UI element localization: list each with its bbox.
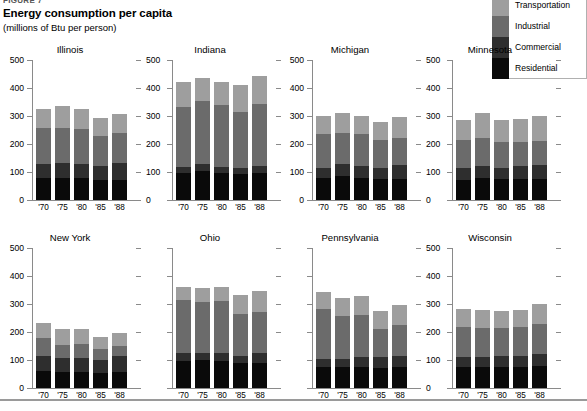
bar-segment-commercial xyxy=(93,166,108,180)
bar-indiana-85[interactable] xyxy=(233,85,248,200)
bar-new-york-80[interactable] xyxy=(74,329,89,388)
plot-area-indiana: '70'75'80'85'88 xyxy=(172,60,260,200)
bar-ohio-88[interactable] xyxy=(252,291,267,388)
x-axis-label: '75 xyxy=(55,203,70,212)
bar-ohio-85[interactable] xyxy=(233,295,248,388)
bar-segment-transportation xyxy=(195,78,210,102)
bar-illinois-88[interactable] xyxy=(112,114,127,200)
bar-segment-residential xyxy=(74,372,89,388)
bar-indiana-80[interactable] xyxy=(214,82,229,200)
bar-minnesota-70[interactable] xyxy=(456,120,471,200)
bar-segment-commercial xyxy=(176,353,191,360)
bar-michigan-85[interactable] xyxy=(373,122,388,200)
bar-segment-residential xyxy=(214,173,229,200)
bar-segment-industrial xyxy=(316,309,331,359)
y-axis-line xyxy=(312,248,313,388)
bar-segment-industrial xyxy=(513,142,528,167)
panel-ohio: Ohio'70'75'80'85'88 xyxy=(140,232,280,402)
bar-new-york-85[interactable] xyxy=(93,337,108,388)
bar-wisconsin-70[interactable] xyxy=(456,309,471,388)
bar-pennsylvania-75[interactable] xyxy=(335,298,350,388)
panel-pennsylvania: Pennsylvania0100200300400500'70'75'80'85… xyxy=(280,232,420,402)
bar-segment-transportation xyxy=(335,113,350,133)
x-axis-line xyxy=(452,388,557,389)
bar-segment-residential xyxy=(373,179,388,200)
bar-segment-industrial xyxy=(233,112,248,168)
bar-ohio-70[interactable] xyxy=(176,287,191,388)
bar-ohio-80[interactable] xyxy=(214,287,229,388)
bar-new-york-70[interactable] xyxy=(36,323,51,388)
x-axis-labels: '70'75'80'85'88 xyxy=(36,203,127,212)
bar-segment-transportation xyxy=(176,82,191,107)
bar-illinois-75[interactable] xyxy=(55,106,70,200)
bar-pennsylvania-85[interactable] xyxy=(373,311,388,388)
bar-illinois-70[interactable] xyxy=(36,109,51,200)
y-axis-label: 100 xyxy=(290,167,304,177)
bar-segment-industrial xyxy=(494,142,509,168)
bar-minnesota-88[interactable] xyxy=(532,116,547,200)
bar-segment-residential xyxy=(233,363,248,388)
y-tick xyxy=(307,172,312,173)
bar-segment-transportation xyxy=(93,337,108,349)
bar-pennsylvania-80[interactable] xyxy=(354,296,369,388)
plot-area-illinois: 00100100200200300300400400500500'70'75'8… xyxy=(32,60,120,200)
bar-segment-transportation xyxy=(55,329,70,345)
bar-wisconsin-88[interactable] xyxy=(532,304,547,388)
bar-pennsylvania-70[interactable] xyxy=(316,292,331,388)
bar-michigan-80[interactable] xyxy=(354,116,369,200)
bar-minnesota-75[interactable] xyxy=(475,113,490,200)
y-tick-right xyxy=(556,144,561,145)
bar-group xyxy=(36,248,127,388)
x-axis-labels: '70'75'80'85'88 xyxy=(176,203,267,212)
bar-segment-commercial xyxy=(354,357,369,367)
bar-new-york-75[interactable] xyxy=(55,329,70,388)
bar-segment-transportation xyxy=(233,295,248,315)
bar-minnesota-85[interactable] xyxy=(513,119,528,200)
bar-segment-industrial xyxy=(373,140,388,167)
bar-wisconsin-85[interactable] xyxy=(513,310,528,388)
bar-segment-residential xyxy=(233,174,248,200)
bar-segment-transportation xyxy=(335,298,350,315)
y-tick xyxy=(307,88,312,89)
bar-michigan-70[interactable] xyxy=(316,116,331,200)
bar-michigan-75[interactable] xyxy=(335,113,350,200)
bar-segment-industrial xyxy=(532,141,547,165)
bar-new-york-88[interactable] xyxy=(112,333,127,388)
plot-area-michigan: 00100100200200300300400400500500'70'75'8… xyxy=(312,60,400,200)
y-tick xyxy=(307,304,312,305)
bar-indiana-88[interactable] xyxy=(252,76,267,200)
bar-indiana-70[interactable] xyxy=(176,82,191,200)
y-tick-right xyxy=(556,332,561,333)
bar-minnesota-80[interactable] xyxy=(494,120,509,200)
bar-segment-transportation xyxy=(354,116,369,134)
bar-segment-residential xyxy=(532,179,547,200)
bar-illinois-80[interactable] xyxy=(74,109,89,200)
bar-segment-residential xyxy=(392,367,407,388)
bar-segment-industrial xyxy=(55,345,70,358)
bar-segment-industrial xyxy=(36,128,51,164)
y-tick xyxy=(167,60,172,61)
bar-segment-residential xyxy=(36,178,51,200)
panel-title-pennsylvania: Pennsylvania xyxy=(280,232,420,243)
bar-wisconsin-75[interactable] xyxy=(475,310,490,388)
bar-segment-transportation xyxy=(176,287,191,300)
bar-wisconsin-80[interactable] xyxy=(494,311,509,388)
bar-segment-transportation xyxy=(392,305,407,325)
bar-segment-commercial xyxy=(316,168,331,179)
bar-segment-industrial xyxy=(74,129,89,164)
bar-segment-commercial xyxy=(36,164,51,177)
bar-indiana-75[interactable] xyxy=(195,78,210,200)
bar-segment-commercial xyxy=(494,356,509,367)
bar-illinois-85[interactable] xyxy=(93,118,108,200)
bar-segment-commercial xyxy=(392,356,407,367)
bar-segment-residential xyxy=(55,178,70,200)
plot-area-pennsylvania: 0100200300400500'70'75'80'85'88 xyxy=(312,248,400,388)
bar-segment-commercial xyxy=(532,354,547,366)
bar-segment-commercial xyxy=(335,359,350,367)
bar-ohio-75[interactable] xyxy=(195,288,210,389)
panel-title-ohio: Ohio xyxy=(140,232,280,243)
panel-title-indiana: Indiana xyxy=(140,44,280,55)
bar-pennsylvania-88[interactable] xyxy=(392,305,407,388)
bar-segment-transportation xyxy=(214,287,229,301)
bar-michigan-88[interactable] xyxy=(392,117,407,200)
